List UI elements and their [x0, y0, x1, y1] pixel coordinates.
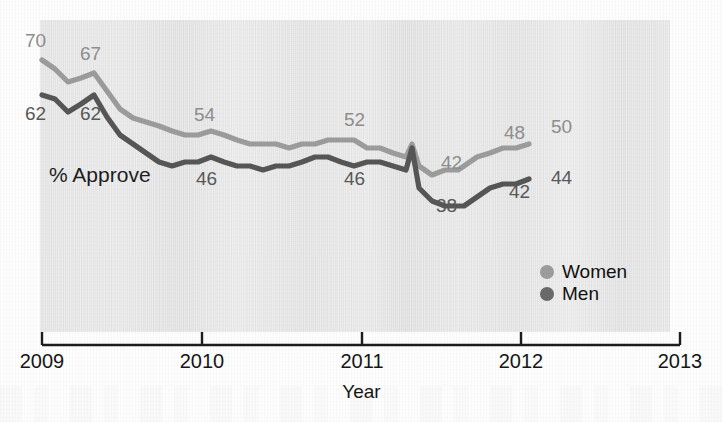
legend: Women Men	[540, 261, 627, 305]
chart-canvas: % Approve 70 67 54 52 42 48 50 62 62 46 …	[0, 0, 723, 422]
data-label-women-42: 42	[441, 153, 462, 172]
legend-swatch-women-icon	[540, 265, 554, 279]
data-label-men-42: 42	[509, 182, 530, 201]
x-tick-label-2013: 2013	[658, 350, 703, 373]
legend-label-men: Men	[562, 283, 599, 305]
data-label-men-38: 38	[436, 196, 457, 215]
data-label-women-67: 67	[80, 44, 101, 63]
x-tick-label-2012: 2012	[499, 350, 544, 373]
x-tick-label-2010: 2010	[180, 350, 225, 373]
data-label-men-46b: 46	[344, 169, 365, 188]
data-label-women-70: 70	[25, 31, 46, 50]
x-tick-label-2009: 2009	[20, 350, 65, 373]
data-label-women-50: 50	[551, 117, 572, 136]
x-axis-title: Year	[0, 381, 723, 403]
x-tick-label-2011: 2011	[340, 350, 383, 373]
data-label-men-46a: 46	[196, 169, 217, 188]
data-label-men-44: 44	[551, 168, 572, 187]
legend-label-women: Women	[562, 261, 627, 283]
y-axis-annotation: % Approve	[49, 163, 151, 187]
legend-swatch-men-icon	[540, 287, 554, 301]
data-label-women-48: 48	[504, 123, 525, 142]
data-label-men-62a: 62	[25, 104, 46, 123]
legend-item-men[interactable]: Men	[540, 283, 627, 305]
data-label-women-52: 52	[344, 110, 365, 129]
data-label-women-54: 54	[194, 105, 215, 124]
data-label-men-62b: 62	[80, 104, 101, 123]
legend-item-women[interactable]: Women	[540, 261, 627, 283]
